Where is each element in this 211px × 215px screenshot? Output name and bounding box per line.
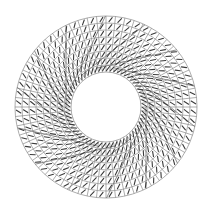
tick-mark — [106, 67, 109, 71]
tick-mark — [61, 123, 66, 124]
tick-mark — [52, 97, 56, 101]
tick-mark — [82, 58, 83, 63]
tick-mark — [23, 110, 27, 113]
tick-mark — [166, 83, 171, 84]
tick-mark — [83, 161, 87, 164]
tick-mark — [125, 50, 129, 53]
tick-mark — [123, 34, 127, 37]
tick-mark — [136, 164, 137, 169]
tick-mark — [115, 142, 117, 147]
tick-mark — [38, 116, 43, 118]
tick-mark — [47, 90, 50, 94]
tick-mark — [43, 54, 44, 59]
tick-mark — [181, 85, 186, 87]
tick-mark — [122, 147, 123, 152]
tick-mark — [110, 67, 114, 71]
tick-mark — [45, 102, 49, 105]
tick-mark — [169, 73, 174, 74]
tick-mark — [51, 108, 55, 111]
spoke-line — [87, 18, 99, 73]
tick-mark — [130, 37, 134, 40]
tick-mark — [53, 169, 58, 170]
tick-mark — [163, 109, 167, 112]
tick-mark — [190, 92, 195, 94]
tick-mark — [118, 19, 122, 23]
tick-mark — [116, 177, 118, 182]
tick-mark — [16, 110, 20, 113]
tick-mark — [108, 164, 111, 168]
tick-mark — [108, 171, 111, 175]
ring-circle — [64, 65, 148, 149]
tick-mark — [39, 123, 44, 125]
tick-mark — [159, 85, 164, 86]
tick-mark — [175, 70, 180, 71]
tick-mark — [136, 74, 141, 75]
tick-mark — [56, 179, 61, 181]
tick-mark — [155, 137, 157, 142]
tick-mark — [153, 151, 154, 156]
tick-mark — [100, 17, 103, 21]
tick-mark — [108, 32, 111, 36]
tick-mark — [52, 78, 54, 83]
tick-mark — [83, 183, 87, 186]
tick-mark — [56, 154, 61, 155]
tick-mark — [107, 60, 110, 64]
tick-mark — [126, 182, 128, 187]
tick-mark — [29, 76, 32, 80]
tick-mark — [180, 134, 183, 138]
tick-mark — [170, 116, 174, 120]
tick-mark — [101, 38, 104, 42]
tick-mark — [191, 119, 195, 123]
tick-mark — [69, 124, 74, 125]
tick-mark — [164, 135, 166, 140]
tick-mark — [33, 68, 35, 73]
tick-mark — [82, 20, 84, 25]
tick-mark — [134, 180, 135, 185]
tick-mark — [148, 117, 151, 121]
tick-mark — [114, 46, 118, 50]
tick-mark — [69, 33, 70, 38]
tick-mark — [128, 43, 132, 46]
tick-mark — [132, 173, 133, 178]
tick-mark — [70, 147, 75, 148]
tick-mark — [109, 18, 112, 22]
tick-mark — [142, 104, 146, 107]
tick-mark — [89, 62, 90, 67]
tick-mark — [75, 142, 80, 143]
tick-mark — [87, 55, 88, 60]
tick-mark — [93, 32, 95, 37]
tick-mark — [26, 127, 31, 129]
tick-mark — [85, 155, 89, 158]
tick-mark — [148, 147, 149, 152]
tick-mark — [139, 170, 140, 175]
tick-mark — [186, 136, 189, 140]
tick-mark — [94, 171, 98, 175]
tick-mark — [177, 117, 181, 121]
tick-mark — [31, 102, 35, 105]
tick-mark — [22, 138, 27, 139]
tick-mark — [154, 93, 159, 95]
tick-mark — [161, 141, 163, 146]
tick-mark — [162, 97, 167, 99]
tick-mark — [119, 191, 121, 196]
tick-mark — [144, 86, 149, 87]
tick-mark — [85, 64, 86, 69]
tick-mark — [135, 24, 139, 27]
tick-mark — [128, 189, 130, 194]
tick-mark — [154, 124, 157, 128]
tick-mark — [148, 94, 153, 96]
tick-mark — [46, 122, 51, 124]
tick-mark — [77, 29, 78, 34]
tick-mark — [60, 118, 65, 120]
tick-mark — [77, 159, 82, 161]
tick-mark — [38, 95, 42, 99]
tick-mark — [55, 72, 57, 77]
tick-mark — [163, 115, 167, 119]
tick-mark — [151, 33, 156, 35]
tick-mark — [183, 144, 185, 149]
tick-mark — [66, 112, 71, 114]
tick-mark — [95, 164, 99, 168]
tick-mark — [119, 140, 120, 145]
tick-mark — [124, 65, 129, 67]
tick-mark — [47, 163, 52, 164]
